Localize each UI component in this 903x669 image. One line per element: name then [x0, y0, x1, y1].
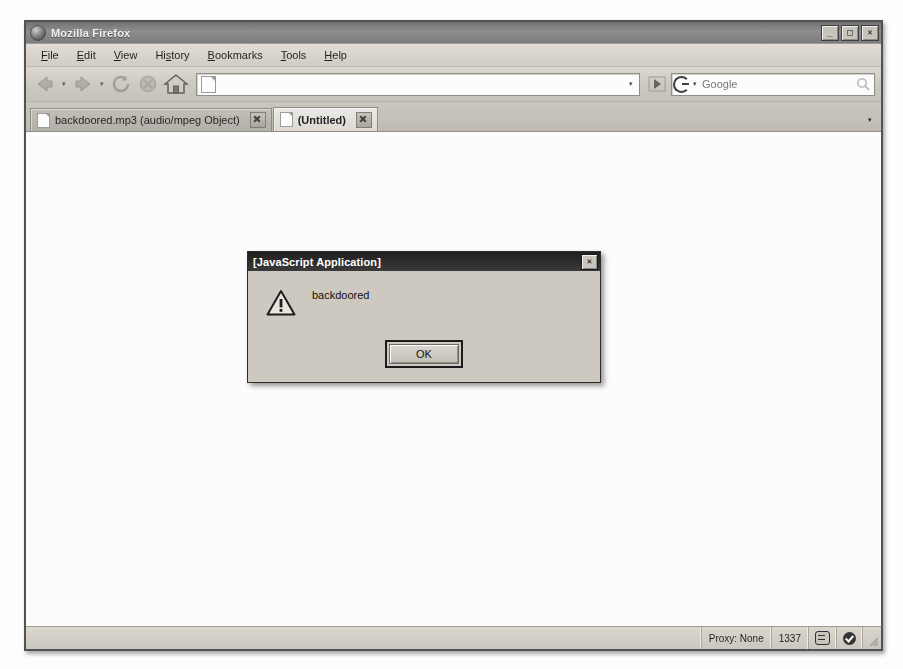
home-icon: [163, 72, 189, 96]
back-arrow-icon: [34, 74, 56, 94]
dialog-footer: OK: [248, 340, 600, 382]
port-status[interactable]: 1337: [772, 627, 809, 649]
robot-icon: [815, 631, 830, 645]
dialog-titlebar[interactable]: [JavaScript Application] ✕: [248, 252, 600, 271]
reload-button[interactable]: [108, 72, 133, 97]
tab-favicon-icon: [280, 112, 293, 127]
url-input[interactable]: [219, 77, 624, 91]
tab-untitled[interactable]: (Untitled): [273, 107, 378, 131]
menu-edit[interactable]: Edit: [68, 47, 105, 63]
page-background: Mozilla Firefox _ □ ✕ File Edit View His…: [0, 0, 903, 669]
check-circle-icon: [843, 632, 856, 645]
tab-label: backdoored.mp3 (audio/mpeg Object): [55, 114, 240, 126]
window-title: Mozilla Firefox: [51, 27, 821, 39]
firefox-icon: [30, 25, 46, 41]
page-favicon-icon: [201, 76, 216, 93]
default-button-frame: OK: [385, 340, 463, 368]
stop-icon: [137, 74, 159, 94]
go-arrow-icon: [647, 75, 667, 93]
resize-grip[interactable]: [863, 627, 881, 649]
google-engine-icon[interactable]: [673, 76, 690, 93]
tab-label: (Untitled): [298, 114, 346, 126]
status-message: [26, 627, 702, 649]
stop-button[interactable]: [135, 72, 160, 97]
url-bar[interactable]: ▾: [196, 73, 640, 96]
forward-history-dropdown[interactable]: ▾: [97, 72, 106, 96]
tab-list-dropdown[interactable]: ▾: [864, 114, 876, 126]
statusbar: Proxy: None 1337: [26, 626, 881, 649]
navigation-toolbar: ▾ ▾: [26, 67, 881, 102]
search-bar[interactable]: ▾: [671, 73, 875, 96]
window-controls: _ □ ✕: [821, 25, 879, 41]
proxy-status[interactable]: Proxy: None: [702, 627, 772, 649]
menu-history[interactable]: History: [146, 47, 198, 63]
minimize-icon: _: [822, 26, 838, 40]
tab-favicon-icon: [37, 113, 50, 128]
security-status-button[interactable]: [837, 627, 863, 649]
search-submit-button[interactable]: [853, 77, 873, 91]
menu-bookmarks[interactable]: Bookmarks: [199, 47, 272, 63]
dialog-body: backdoored: [248, 271, 600, 340]
search-input[interactable]: [700, 77, 853, 91]
warning-triangle-icon: [266, 289, 296, 316]
dialog-close-button[interactable]: ✕: [581, 254, 598, 270]
back-button[interactable]: [32, 72, 57, 97]
tab-close-button[interactable]: [250, 112, 266, 128]
close-icon: ✕: [862, 26, 878, 40]
go-button[interactable]: [645, 73, 669, 96]
menu-view[interactable]: View: [105, 47, 147, 63]
tab-strip: backdoored.mp3 (audio/mpeg Object) (Unti…: [26, 102, 881, 131]
magnifier-icon: [856, 77, 870, 91]
minimize-button[interactable]: _: [821, 25, 839, 41]
forward-button[interactable]: [70, 72, 95, 97]
close-button[interactable]: ✕: [861, 25, 879, 41]
menu-file[interactable]: File: [32, 47, 68, 63]
menu-help[interactable]: Help: [315, 47, 356, 63]
menubar: File Edit View History Bookmarks Tools H…: [26, 44, 881, 67]
javascript-alert-dialog: [JavaScript Application] ✕ backdoored OK: [247, 251, 601, 383]
home-button[interactable]: [162, 71, 190, 97]
dialog-title: [JavaScript Application]: [253, 256, 581, 268]
dialog-message: backdoored: [312, 287, 370, 301]
ok-button[interactable]: OK: [389, 344, 459, 364]
forward-arrow-icon: [72, 74, 94, 94]
robot-status-button[interactable]: [809, 627, 837, 649]
back-history-dropdown[interactable]: ▾: [59, 72, 68, 96]
window-titlebar[interactable]: Mozilla Firefox _ □ ✕: [26, 22, 881, 44]
maximize-button[interactable]: □: [841, 25, 859, 41]
tab-close-button[interactable]: [356, 112, 372, 128]
menu-tools[interactable]: Tools: [272, 47, 316, 63]
resize-grip-icon: [867, 635, 879, 647]
maximize-icon: □: [842, 26, 858, 40]
url-history-dropdown-icon[interactable]: ▾: [624, 80, 637, 88]
search-engine-dropdown-icon[interactable]: ▾: [690, 80, 700, 88]
tab-backdoored-mp3[interactable]: backdoored.mp3 (audio/mpeg Object): [30, 108, 272, 131]
reload-icon: [110, 74, 132, 94]
